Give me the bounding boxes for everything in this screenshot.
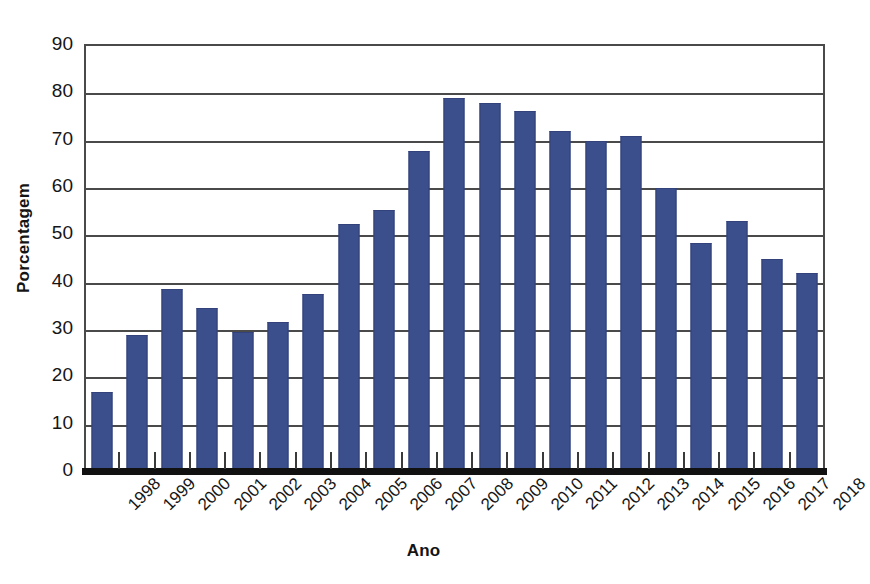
bar xyxy=(515,111,536,470)
bar-slot xyxy=(719,44,754,470)
bar-slot xyxy=(437,44,472,470)
x-tick-mark xyxy=(683,452,685,469)
x-tick-mark xyxy=(224,452,226,469)
x-axis-title: Ano xyxy=(0,541,847,561)
x-tick-label: 2017 xyxy=(794,474,835,515)
bar xyxy=(585,141,606,470)
y-tick-label: 50 xyxy=(33,223,73,242)
x-tick-label: 1999 xyxy=(159,474,200,515)
x-tick-label: 2002 xyxy=(265,474,306,515)
bar xyxy=(479,103,500,470)
bar-slot xyxy=(790,44,825,470)
bar-slot xyxy=(402,44,437,470)
x-tick-label: 2013 xyxy=(653,474,694,515)
x-tick-label: 2009 xyxy=(512,474,553,515)
bar xyxy=(126,335,147,470)
x-tick-mark xyxy=(648,452,650,469)
x-tick-mark xyxy=(718,452,720,469)
bar xyxy=(620,136,641,470)
x-tick-label: 2015 xyxy=(724,474,765,515)
x-tick-mark xyxy=(118,452,120,469)
bar-slot xyxy=(119,44,154,470)
bar xyxy=(338,224,359,470)
x-tick-mark xyxy=(506,452,508,469)
bar-slot xyxy=(649,44,684,470)
y-tick-label: 80 xyxy=(33,81,73,100)
bar xyxy=(691,243,712,470)
x-tick-mark xyxy=(330,452,332,469)
x-tick-label: 2001 xyxy=(230,474,271,515)
x-tick-label: 2011 xyxy=(582,474,622,514)
bar xyxy=(656,188,677,470)
bar-slot xyxy=(366,44,401,470)
x-tick-mark xyxy=(295,452,297,469)
x-tick-mark xyxy=(259,452,261,469)
x-tick-mark xyxy=(612,452,614,469)
x-tick-mark xyxy=(542,452,544,469)
bar-slot xyxy=(754,44,789,470)
bar xyxy=(268,322,289,470)
x-tick-label: 1998 xyxy=(124,474,165,515)
bar-slot xyxy=(84,44,119,470)
bar-slot xyxy=(543,44,578,470)
x-tick-label: 2004 xyxy=(335,474,376,515)
bar xyxy=(373,210,394,470)
bar-slot xyxy=(190,44,225,470)
bar xyxy=(232,332,253,470)
bar xyxy=(550,131,571,470)
bar xyxy=(409,151,430,471)
bar-slot xyxy=(578,44,613,470)
x-tick-mark xyxy=(471,452,473,469)
y-tick-label: 40 xyxy=(33,271,73,290)
bar xyxy=(444,98,465,470)
x-tick-label: 2016 xyxy=(759,474,800,515)
bar-slot xyxy=(331,44,366,470)
x-tick-mark xyxy=(789,452,791,469)
y-tick-label: 30 xyxy=(33,318,73,337)
x-tick-label: 2007 xyxy=(441,474,482,515)
bar-slot xyxy=(225,44,260,470)
x-tick-label: 2005 xyxy=(371,474,412,515)
bar-slot xyxy=(507,44,542,470)
x-tick-label: 2018 xyxy=(829,474,870,515)
y-tick-label: 60 xyxy=(33,176,73,195)
y-axis-title: Porcentagem xyxy=(14,138,34,338)
x-axis-tick-labels: 1998199920002001200220032004200520062007… xyxy=(84,474,825,544)
y-tick-label: 0 xyxy=(33,460,73,479)
bar-slot xyxy=(296,44,331,470)
bar-slot xyxy=(472,44,507,470)
bar-series xyxy=(84,44,825,470)
x-tick-mark xyxy=(436,452,438,469)
y-tick-label: 20 xyxy=(33,365,73,384)
x-tick-label: 2003 xyxy=(300,474,341,515)
bar xyxy=(303,294,324,470)
x-tick-label: 2006 xyxy=(406,474,447,515)
x-tick-label: 2012 xyxy=(618,474,659,515)
bar-slot xyxy=(260,44,295,470)
y-tick-label: 90 xyxy=(33,34,73,53)
x-tick-label: 2008 xyxy=(477,474,518,515)
bar xyxy=(197,308,218,470)
bar xyxy=(726,221,747,470)
x-tick-mark xyxy=(365,452,367,469)
bar-slot xyxy=(613,44,648,470)
bar-slot xyxy=(684,44,719,470)
x-tick-mark xyxy=(401,452,403,469)
bar xyxy=(762,259,783,470)
x-tick-label: 2010 xyxy=(547,474,588,515)
x-tick-label: 2014 xyxy=(688,474,729,515)
x-tick-mark xyxy=(189,452,191,469)
x-tick-mark xyxy=(577,452,579,469)
bar-slot xyxy=(155,44,190,470)
bar xyxy=(91,392,112,470)
x-tick-mark xyxy=(154,452,156,469)
x-tick-mark xyxy=(753,452,755,469)
x-tick-label: 2000 xyxy=(194,474,235,515)
y-tick-label: 70 xyxy=(33,129,73,148)
y-tick-label: 10 xyxy=(33,413,73,432)
bar xyxy=(797,273,818,470)
bar xyxy=(162,289,183,470)
